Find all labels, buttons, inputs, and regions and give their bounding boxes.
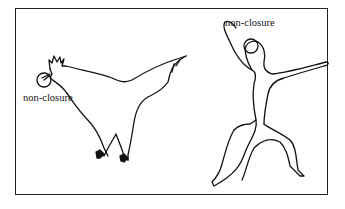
rooster-outline	[42, 56, 186, 162]
label-non-closure-human: non-closure	[225, 17, 275, 28]
figure-drawing	[0, 0, 345, 209]
human-figure-outline	[212, 21, 328, 186]
label-non-closure-bird: non-closure	[23, 92, 73, 103]
